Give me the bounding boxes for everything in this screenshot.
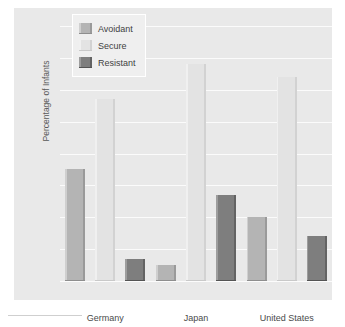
- bar-edge: [143, 259, 145, 281]
- swatch-edge: [79, 67, 92, 69]
- legend-swatch-secure: [79, 40, 92, 51]
- bar-edge: [113, 99, 115, 281]
- bar-edge: [234, 195, 236, 281]
- x-axis-label-united-states: United States: [241, 313, 332, 323]
- bar-edge: [65, 169, 67, 281]
- bar-edge: [95, 280, 115, 282]
- legend-item-resistant[interactable]: Resistant: [79, 54, 136, 71]
- bar-edge: [125, 280, 145, 282]
- bar-face: [95, 99, 115, 281]
- x-axis-label-japan: Japan: [151, 313, 242, 323]
- swatch-edge: [79, 50, 92, 52]
- bar-edge: [277, 77, 279, 281]
- bar-face: [125, 259, 145, 281]
- footer-rule: [8, 315, 82, 316]
- chart-legend: AvoidantSecureResistant: [72, 14, 146, 77]
- bar-germany-avoidant: [65, 169, 85, 281]
- legend-item-avoidant[interactable]: Avoidant: [79, 20, 136, 37]
- bar-united-states-avoidant: [247, 217, 267, 281]
- bar-edge: [247, 280, 267, 282]
- bar-edge: [186, 280, 206, 282]
- bar-edge: [277, 280, 297, 282]
- bar-germany-secure: [95, 99, 115, 281]
- bar-edge: [216, 280, 236, 282]
- bar-japan-resistant: [216, 195, 236, 281]
- legend-label: Secure: [98, 41, 127, 51]
- bar-edge: [295, 77, 297, 281]
- y-axis-title: Percentage of Infants: [41, 41, 51, 161]
- legend-swatch-avoidant: [79, 23, 92, 34]
- bar-edge: [307, 280, 327, 282]
- bar-face: [307, 236, 327, 281]
- bar-edge: [204, 64, 206, 281]
- bar-face: [216, 195, 236, 281]
- legend-label: Resistant: [98, 58, 136, 68]
- bar-edge: [186, 64, 188, 281]
- bar-face: [65, 169, 85, 281]
- bar-united-states-resistant: [307, 236, 327, 281]
- bar-united-states-secure: [277, 77, 297, 281]
- bar-japan-secure: [186, 64, 206, 281]
- bar-edge: [125, 259, 127, 281]
- bar-edge: [83, 169, 85, 281]
- swatch-edge: [79, 33, 92, 35]
- bar-edge: [156, 280, 176, 282]
- legend-item-secure[interactable]: Secure: [79, 37, 136, 54]
- bar-edge: [265, 217, 267, 281]
- bar-edge: [307, 236, 309, 281]
- axis-baseline: [60, 281, 332, 282]
- bar-germany-resistant: [125, 259, 145, 281]
- legend-swatch-resistant: [79, 57, 92, 68]
- bar-face: [186, 64, 206, 281]
- bar-face: [277, 77, 297, 281]
- bar-face: [247, 217, 267, 281]
- bar-edge: [325, 236, 327, 281]
- bar-edge: [95, 99, 97, 281]
- legend-label: Avoidant: [98, 24, 133, 34]
- bar-edge: [65, 280, 85, 282]
- bar-edge: [216, 195, 218, 281]
- bar-edge: [247, 217, 249, 281]
- bar-japan-avoidant: [156, 265, 176, 281]
- bar-chart-figure: Percentage of Infants 01020304050607080 …: [0, 0, 345, 327]
